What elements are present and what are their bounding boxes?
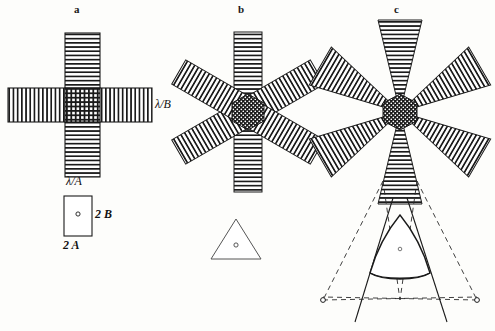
construction-right-endpoint-circle: [475, 298, 480, 303]
panel-label-b: b: [238, 3, 244, 15]
label-two-a: 2 A: [63, 238, 80, 253]
construction-left-endpoint-circle: [321, 298, 326, 303]
label-lambda-over-a: λ/A: [66, 174, 82, 189]
label-lambda-over-b: λ/B: [155, 97, 171, 112]
panel-a-center-cross-hatch: [65, 88, 100, 122]
panel-label-a: a: [74, 3, 80, 15]
inset-rectangle-aperture: [64, 196, 92, 236]
label-two-b: 2 B: [95, 207, 112, 222]
figure-canvas: [0, 0, 495, 331]
panel-label-c: c: [394, 3, 399, 15]
